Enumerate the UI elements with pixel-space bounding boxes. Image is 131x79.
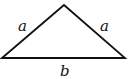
label-left-side: a [18,17,27,35]
label-base: b [60,62,70,79]
label-right-side: a [100,17,109,35]
triangle-diagram: a a b [0,0,131,79]
